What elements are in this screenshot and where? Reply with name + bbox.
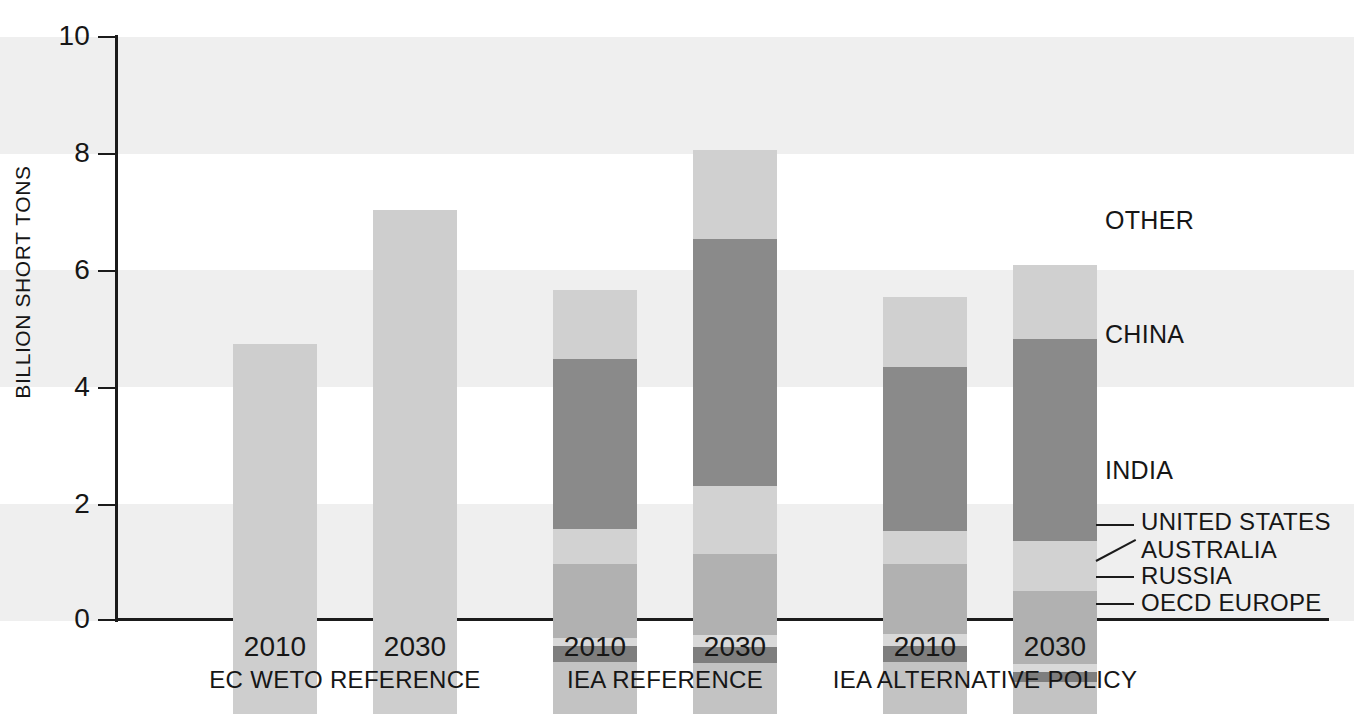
bar-segment-india <box>553 529 637 564</box>
bar-segment-india <box>1013 541 1097 591</box>
x-label-year-3: 2010 <box>525 631 665 663</box>
legend-label-china: CHINA <box>1105 320 1184 349</box>
legend-label-united-states: UNITED STATES <box>1141 508 1331 536</box>
y-tick-10 <box>98 36 115 38</box>
legend-label-india: INDIA <box>1105 456 1173 485</box>
grid-band-8-10 <box>0 37 1354 154</box>
x-label-year-5: 2010 <box>855 631 995 663</box>
legend-leader-oecd-europe <box>1096 603 1134 605</box>
x-group-label-iea-alt: IEA ALTERNATIVE POLICY <box>775 666 1195 694</box>
legend-leader-united-states <box>1096 524 1134 526</box>
y-tick-6 <box>98 270 115 272</box>
y-tick-4 <box>98 387 115 389</box>
y-tick-label-2: 2 <box>44 488 90 520</box>
bar-segment-united-states <box>553 564 637 638</box>
bar-segment-other <box>693 150 777 239</box>
x-label-year-6: 2030 <box>985 631 1125 663</box>
x-label-year-4: 2030 <box>665 631 805 663</box>
legend-label-australia: AUSTRALIA <box>1141 536 1277 564</box>
x-group-label-iea-ref: IEA REFERENCE <box>525 666 805 694</box>
legend-leader-russia <box>1096 576 1134 578</box>
y-tick-label-4: 4 <box>44 371 90 403</box>
bar-segment-china <box>883 367 967 531</box>
x-label-year-2: 2030 <box>345 631 485 663</box>
coal-production-stacked-bar-chart: 10 8 6 4 2 0 BILLION SHORT TONS <box>0 0 1354 714</box>
bar-segment-china <box>1013 339 1097 541</box>
y-tick-8 <box>98 153 115 155</box>
bar-segment-china <box>553 359 637 529</box>
bar-segment-other <box>883 297 967 367</box>
bar-iea-reference-2030 <box>693 150 777 714</box>
legend-label-other: OTHER <box>1105 206 1194 235</box>
bar-segment-united-states <box>693 554 777 635</box>
y-tick-2 <box>98 504 115 506</box>
y-tick-label-10: 10 <box>44 20 90 52</box>
y-axis-line <box>115 35 118 622</box>
y-tick-0 <box>98 619 115 621</box>
bar-segment-india <box>883 531 967 564</box>
bar-segment-united-states <box>883 564 967 634</box>
bar-segment-india <box>693 486 777 554</box>
bar-segment-other <box>553 290 637 359</box>
x-label-year-1: 2010 <box>205 631 345 663</box>
y-axis-title: BILLION SHORT TONS <box>11 47 35 517</box>
bar-segment-other <box>1013 265 1097 339</box>
y-tick-label-0: 0 <box>44 603 90 635</box>
y-tick-label-8: 8 <box>44 137 90 169</box>
x-group-label-ec-weto: EC WETO REFERENCE <box>205 666 485 694</box>
legend-label-russia: RUSSIA <box>1141 562 1232 590</box>
bar-segment-china <box>693 239 777 486</box>
legend-label-oecd-europe: OECD EUROPE <box>1141 589 1322 617</box>
y-tick-label-6: 6 <box>44 254 90 286</box>
